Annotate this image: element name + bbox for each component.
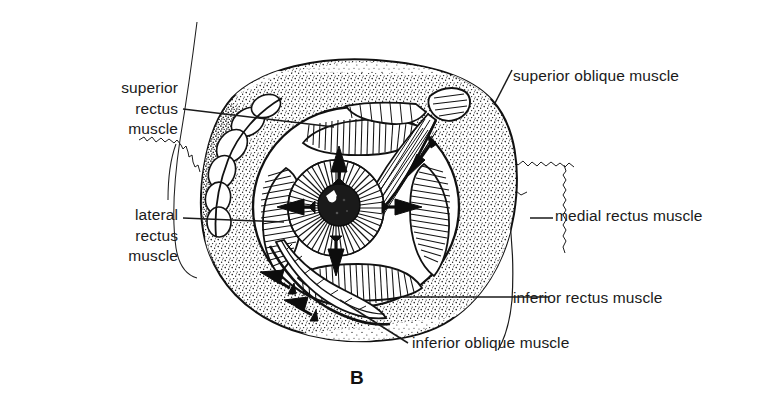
label-inferior-rectus-muscle: inferior rectus muscle	[513, 288, 753, 309]
panel-letter: B	[350, 367, 364, 389]
label-line-2: rectus	[135, 227, 178, 244]
label-line-2: rectus	[135, 100, 178, 117]
label-line-3: muscle	[128, 120, 178, 137]
label-superior-rectus-muscle: superiorrectusmuscle	[28, 78, 178, 140]
label-inferior-oblique-muscle: inferior oblique muscle	[412, 333, 662, 354]
pupil	[318, 184, 360, 226]
label-line-3: muscle	[128, 247, 178, 264]
label-superior-oblique-muscle: superior oblique muscle	[513, 66, 753, 87]
anatomy-figure: superiorrectusmuscle lateralrectusmuscle…	[0, 0, 761, 407]
label-lateral-rectus-muscle: lateralrectusmuscle	[28, 205, 178, 267]
leader-superior-oblique	[494, 70, 512, 105]
label-medial-rectus-muscle: medial rectus muscle	[555, 206, 760, 227]
label-line-1: lateral	[135, 206, 178, 223]
cranial-suture-line-left	[139, 137, 200, 172]
label-line-1: superior	[121, 79, 178, 96]
